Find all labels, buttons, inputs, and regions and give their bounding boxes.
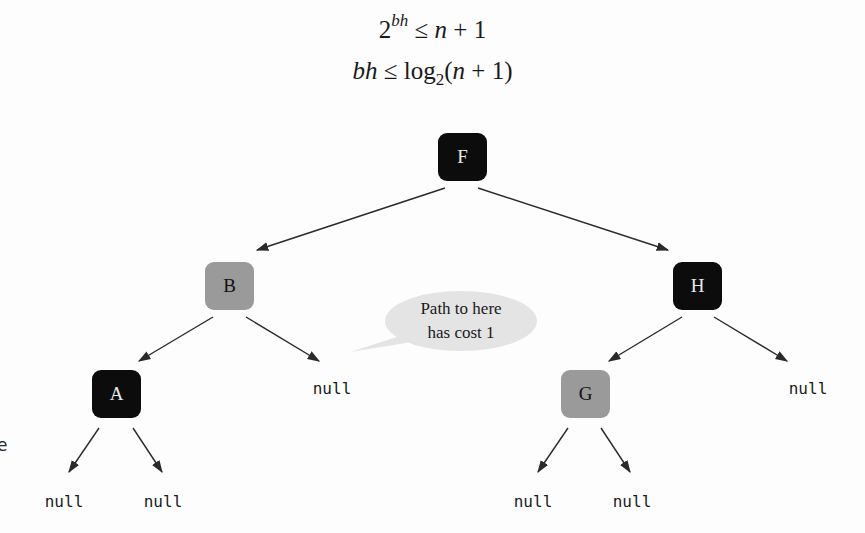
node-label: G [579, 383, 593, 405]
tree-node-A: A [92, 370, 141, 418]
tree-node-H: H [673, 262, 722, 310]
edge-F-B [257, 188, 445, 250]
null-leaf-H-right: null [789, 379, 828, 398]
node-label: H [691, 275, 705, 297]
callout-text: Path to here has cost 1 [385, 297, 537, 345]
tree-node-B: B [205, 262, 254, 310]
edge-F-H [478, 188, 668, 250]
edge-H-G [609, 317, 682, 361]
tree-node-F: F [438, 133, 487, 181]
null-leaf-A-right: null [144, 492, 183, 511]
tree-edges [0, 0, 865, 533]
cropped-text-fragment: e [0, 435, 7, 455]
callout-line-2: has cost 1 [385, 321, 537, 345]
edge-G-null-left [538, 428, 568, 472]
callout-line-1: Path to here [385, 297, 537, 321]
node-label: F [457, 146, 468, 168]
node-label: A [110, 383, 124, 405]
edge-G-null-right [601, 428, 630, 472]
edge-H-null [714, 317, 787, 361]
null-leaf-G-right: null [613, 492, 652, 511]
null-leaf-B-right: null [313, 379, 352, 398]
tree-node-G: G [561, 370, 610, 418]
null-leaf-A-left: null [45, 492, 84, 511]
node-label: B [223, 275, 236, 297]
edge-B-null [246, 317, 319, 361]
edge-A-null-right [133, 428, 162, 472]
null-leaf-G-left: null [514, 492, 553, 511]
edge-A-null-left [69, 428, 99, 472]
edge-B-A [139, 317, 213, 361]
